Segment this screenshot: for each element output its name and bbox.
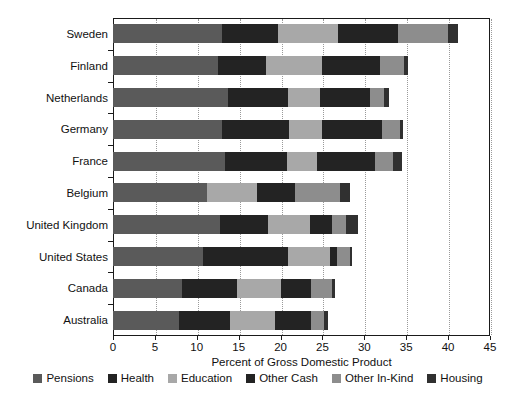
legend-item[interactable]: Other In-Kind [332, 372, 413, 384]
y-axis-category-label: Canada [0, 282, 108, 294]
legend-label: Education [181, 372, 232, 384]
bar-segment [393, 152, 402, 171]
x-axis-tick [239, 336, 240, 340]
x-axis-tick-label: 20 [261, 341, 301, 353]
x-axis-tick-label: 0 [93, 341, 133, 353]
x-axis-tick [322, 336, 323, 340]
bar-segment [113, 56, 218, 75]
legend-item[interactable]: Health [108, 372, 154, 384]
bar-row [113, 120, 490, 139]
bar-segment [311, 311, 324, 330]
x-axis-tick [448, 336, 449, 340]
y-axis-category-label: United States [0, 251, 108, 263]
legend-swatch-icon [168, 374, 177, 383]
chart-legend: PensionsHealthEducationOther CashOther I… [0, 372, 516, 384]
bar-segment [179, 311, 230, 330]
x-axis-tick-label: 15 [219, 341, 259, 353]
y-axis-labels: SwedenFinlandNetherlandsGermanyFranceBel… [0, 18, 108, 336]
legend-label: Other In-Kind [345, 372, 413, 384]
bar-segment [317, 152, 376, 171]
x-axis-tick-label: 45 [470, 341, 510, 353]
bar-segment [350, 247, 352, 266]
legend-item[interactable]: Other Cash [246, 372, 318, 384]
bar-segment [332, 215, 345, 234]
stacked-bar-chart: SwedenFinlandNetherlandsGermanyFranceBel… [0, 0, 516, 397]
bar-segment [346, 215, 358, 234]
bar-row [113, 247, 490, 266]
x-axis-tick [281, 336, 282, 340]
legend-label: Housing [440, 372, 482, 384]
bar-segment [225, 152, 287, 171]
y-axis-category-label: United Kingdom [0, 219, 108, 231]
bar-segment [113, 215, 220, 234]
bar-segment [275, 311, 311, 330]
bar-segment [288, 88, 320, 107]
bar-segment [370, 88, 384, 107]
bar-segment [228, 88, 288, 107]
bar-segment [330, 247, 337, 266]
bar-segment [338, 24, 397, 43]
x-axis-title: Percent of Gross Domestic Product [113, 356, 490, 368]
bar-row [113, 279, 490, 298]
legend-swatch-icon [108, 374, 117, 383]
legend-label: Health [121, 372, 154, 384]
bar-segment [400, 120, 403, 139]
bar-row [113, 56, 490, 75]
bar-segment [222, 24, 278, 43]
bar-segment [113, 183, 207, 202]
bar-segment [113, 279, 182, 298]
bar-row [113, 183, 490, 202]
bar-segment [203, 247, 288, 266]
x-axis-tick [155, 336, 156, 340]
legend-swatch-icon [33, 374, 42, 383]
y-axis-category-label: Sweden [0, 28, 108, 40]
x-axis-tick-label: 25 [302, 341, 342, 353]
bar-segment [295, 183, 340, 202]
x-axis-tick [406, 336, 407, 340]
legend-swatch-icon [427, 374, 436, 383]
bar-segment [230, 311, 274, 330]
bar-segment [289, 120, 323, 139]
x-axis-tick [197, 336, 198, 340]
bar-segment [337, 247, 350, 266]
bar-segment [310, 215, 333, 234]
y-axis-category-label: Netherlands [0, 92, 108, 104]
bar-row [113, 311, 490, 330]
bar-segment [311, 279, 332, 298]
bar-segment [287, 152, 316, 171]
bar-segment [340, 183, 350, 202]
bar-segment [281, 279, 311, 298]
bar-row [113, 24, 490, 43]
bar-row [113, 88, 490, 107]
x-axis-tick [113, 336, 114, 340]
legend-item[interactable]: Pensions [33, 372, 93, 384]
y-axis-category-label: Belgium [0, 187, 108, 199]
legend-item[interactable]: Housing [427, 372, 482, 384]
bar-segment [268, 215, 310, 234]
bar-segment [324, 311, 328, 330]
bar-segment [113, 247, 203, 266]
x-axis-tick-label: 40 [428, 341, 468, 353]
bar-row [113, 152, 490, 171]
gridline [491, 19, 493, 335]
y-axis-category-label: Finland [0, 60, 108, 72]
legend-label: Other Cash [259, 372, 318, 384]
bar-segment [278, 24, 338, 43]
x-axis-tick-label: 5 [135, 341, 175, 353]
bar-segment [222, 120, 289, 139]
bar-segment [320, 88, 370, 107]
bar-segment [113, 88, 228, 107]
bar-segment [375, 152, 393, 171]
x-axis-tick [490, 336, 491, 340]
bar-segment [182, 279, 237, 298]
bar-segment [322, 56, 380, 75]
legend-item[interactable]: Education [168, 372, 232, 384]
bar-segment [237, 279, 281, 298]
bar-segment [207, 183, 257, 202]
bar-segment [382, 120, 400, 139]
y-axis-category-label: Australia [0, 314, 108, 326]
bar-segment [322, 120, 381, 139]
bar-segment [448, 24, 458, 43]
legend-swatch-icon [246, 374, 255, 383]
bar-segment [380, 56, 403, 75]
